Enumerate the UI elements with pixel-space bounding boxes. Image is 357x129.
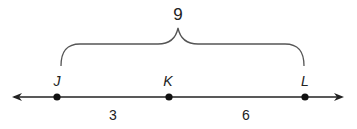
point-l-label: L — [301, 73, 309, 89]
point-l — [301, 93, 308, 100]
total-length-label: 9 — [173, 5, 182, 24]
segment-kl-length: 6 — [242, 107, 250, 123]
point-j — [53, 93, 60, 100]
number-line-diagram: 9 J K L 3 6 — [0, 0, 357, 129]
point-k — [165, 93, 172, 100]
segment-jk-length: 3 — [109, 107, 117, 123]
brace — [61, 28, 304, 66]
point-j-label: J — [53, 73, 62, 89]
point-k-label: K — [163, 73, 173, 89]
